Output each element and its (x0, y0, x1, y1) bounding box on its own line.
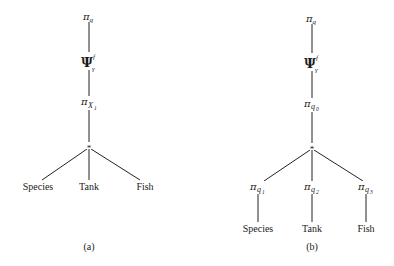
tree-b-edge-left (264, 150, 310, 181)
tree-a-edge-fish (91, 149, 140, 180)
svg-text:q: q (313, 18, 317, 26)
tree-a-edge-species (42, 149, 87, 180)
tree-a-leaf-tank: Tank (79, 181, 99, 192)
tree-b-leaf-species: Species (243, 223, 274, 234)
join-asterisk: * (87, 143, 92, 153)
tree-b-root-projection: π q (305, 12, 321, 26)
tree-b-grouping-operator: Ψ f γ (303, 53, 323, 74)
svg-text:q: q (90, 16, 94, 24)
tree-b: π q Ψ f γ π q 0 * π q 1 (243, 12, 377, 253)
pi-symbol: π (249, 181, 257, 192)
tree-b-inner-projection: π q 0 (303, 98, 325, 112)
pi-symbol: π (303, 98, 311, 109)
tree-b-leaf-tank: Tank (302, 223, 322, 234)
tree-a-inner-projection: π X 1 (80, 96, 102, 111)
pi-symbol: π (357, 181, 365, 192)
svg-text:1: 1 (94, 105, 97, 111)
join-asterisk: * (310, 144, 315, 154)
tree-b-caption: (b) (306, 241, 318, 253)
tree-b-edge-right (314, 150, 363, 181)
tree-a-leaf-species: Species (23, 181, 54, 192)
tree-a-root-projection: π q (82, 10, 98, 24)
tree-b-leaf-fish: Fish (357, 223, 374, 234)
svg-text:q: q (311, 185, 315, 194)
svg-text:q: q (365, 185, 369, 194)
svg-text:γ: γ (315, 66, 318, 74)
svg-text:2: 2 (316, 189, 319, 195)
pi-symbol: π (80, 96, 88, 107)
tree-a-join-node: * (86, 142, 92, 153)
tree-a-leaf-fish: Fish (136, 181, 153, 192)
tree-b-child-projection-1: π q 1 (249, 181, 269, 195)
pi-symbol: π (303, 181, 311, 192)
query-tree-figure: π q Ψ f γ π X 1 * Species Tank Fish (a) (0, 0, 394, 266)
tree-b-join-node: * (309, 143, 315, 154)
svg-text:3: 3 (369, 189, 373, 195)
tree-b-child-projection-2: π q 2 (303, 181, 323, 195)
svg-text:q: q (257, 185, 261, 194)
tree-a-grouping-operator: Ψ f γ (80, 52, 100, 73)
svg-text:q: q (311, 102, 315, 111)
tree-a: π q Ψ f γ π X 1 * Species Tank Fish (a) (23, 10, 154, 253)
svg-text:γ: γ (92, 65, 95, 73)
svg-text:0: 0 (316, 106, 319, 112)
tree-a-caption: (a) (83, 241, 94, 253)
svg-text:1: 1 (262, 189, 265, 195)
tree-b-child-projection-3: π q 3 (357, 181, 377, 195)
